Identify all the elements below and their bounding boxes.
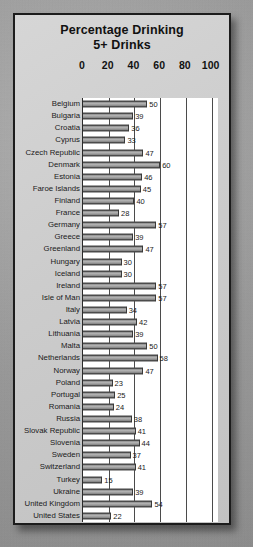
category-label: Germany [48,221,80,229]
bar-row[interactable]: 28 [83,207,218,219]
bar[interactable] [83,464,136,471]
bar-row[interactable]: 33 [83,134,218,146]
bar-value-label: 38 [132,415,142,424]
bar-row[interactable]: 41 [83,425,218,437]
category-label: Finland [54,197,80,205]
bar[interactable] [83,210,119,217]
bar[interactable] [83,476,102,483]
bar-value-label: 50 [147,100,157,109]
bar[interactable] [83,343,147,350]
bar[interactable] [83,161,160,168]
bar-row[interactable]: 34 [83,304,218,316]
bar[interactable] [83,185,141,192]
bar-row[interactable]: 39 [83,110,218,122]
bar[interactable] [83,125,129,132]
bar[interactable] [83,197,134,204]
bar-row[interactable]: 46 [83,171,218,183]
bar[interactable] [83,270,122,277]
category-label: Ukraine [53,488,80,496]
bar-value-label: 30 [122,257,132,266]
bar[interactable] [83,331,133,338]
category-label: Iceland [55,270,80,278]
bar[interactable] [83,500,152,507]
bar[interactable] [83,488,133,495]
bar[interactable] [83,319,137,326]
bar-row[interactable]: 23 [83,377,218,389]
bar[interactable] [83,113,133,120]
category-label: Lithuania [48,330,80,338]
bar-row[interactable]: 44 [83,437,218,449]
bar-value-label: 40 [134,196,144,205]
bar[interactable] [83,416,132,423]
bar[interactable] [83,222,156,229]
bar-row[interactable]: 50 [83,98,218,110]
category-label: Croatia [55,124,80,132]
bar[interactable] [83,101,147,108]
bar[interactable] [83,173,142,180]
chart-title-line-1: Percentage Drinking [15,23,229,38]
bar[interactable] [83,403,114,410]
bar-row[interactable]: 42 [83,316,218,328]
bar[interactable] [83,306,127,313]
bar-value-label: 42 [137,318,147,327]
x-tick-label-80: 80 [179,59,191,71]
bar-row[interactable]: 54 [83,498,218,510]
bar-row[interactable]: 47 [83,243,218,255]
bar-row[interactable]: 15 [83,474,218,486]
bar[interactable] [83,234,133,241]
bar-row[interactable]: 57 [83,292,218,304]
bar[interactable] [83,379,113,386]
category-label: Netherlands [38,355,80,363]
bar-row[interactable]: 57 [83,219,218,231]
bar-row[interactable]: 24 [83,401,218,413]
chart-panel: Percentage Drinking 5+ Drinks 0204060801… [13,13,231,525]
bar[interactable] [83,428,136,435]
bar-row[interactable]: 30 [83,255,218,267]
bar-row[interactable]: 22 [83,510,218,522]
bar[interactable] [83,246,143,253]
bar[interactable] [83,391,115,398]
bar[interactable] [83,355,158,362]
bar-row[interactable]: 39 [83,486,218,498]
bar-row[interactable]: 47 [83,365,218,377]
category-label: Cyprus [55,136,80,144]
chart-title-line-2: 5+ Drinks [15,38,229,53]
category-label: Sweden [52,451,80,459]
category-label: Latvia [59,318,80,326]
x-tick-label-100: 100 [202,59,220,71]
category-label: Greenland [44,246,80,254]
bar-row[interactable]: 38 [83,413,218,425]
bar-row[interactable]: 37 [83,449,218,461]
bar[interactable] [83,512,111,519]
bar[interactable] [83,137,125,144]
bar-row[interactable]: 39 [83,231,218,243]
bar-value-label: 39 [133,233,143,242]
bar-row[interactable]: 58 [83,352,218,364]
bar-row[interactable]: 41 [83,461,218,473]
bar-row[interactable]: 45 [83,183,218,195]
bar[interactable] [83,294,156,301]
bar-row[interactable]: 60 [83,159,218,171]
category-label: United Kingdom [25,500,80,508]
bar-row[interactable]: 57 [83,280,218,292]
bar[interactable] [83,440,140,447]
category-label: Norway [54,367,80,375]
bar[interactable] [83,258,122,265]
plot-area: 5039363347604645402857394730305757344239… [82,98,218,522]
bar-row[interactable]: 40 [83,195,218,207]
bar-row[interactable]: 36 [83,122,218,134]
bar-row[interactable]: 25 [83,389,218,401]
bar-row[interactable]: 39 [83,328,218,340]
category-label: Ireland [56,282,80,290]
category-label: Slovenia [50,439,80,447]
category-label: Faroe Islands [33,185,80,193]
bar[interactable] [83,452,131,459]
bar-row[interactable]: 30 [83,268,218,280]
bar-value-label: 36 [129,124,139,133]
bar-row[interactable]: 47 [83,146,218,158]
bar-value-label: 60 [160,160,170,169]
bar[interactable] [83,282,156,289]
bar[interactable] [83,367,143,374]
bar-row[interactable]: 50 [83,340,218,352]
bar[interactable] [83,149,143,156]
